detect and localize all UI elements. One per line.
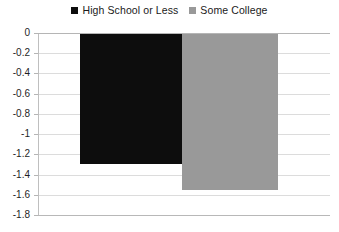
- y-axis-tick-label: -0.8: [13, 109, 30, 119]
- bar-chart: High School or Less Some College 0-0.2-0…: [0, 0, 339, 232]
- bottom-axis-line: [38, 215, 330, 216]
- y-axis-tick-label: -0.6: [13, 89, 30, 99]
- legend-item-high-school: High School or Less: [71, 5, 178, 16]
- legend-label-some-college: Some College: [200, 5, 267, 16]
- y-axis-tick-label: -1.6: [13, 190, 30, 200]
- y-axis-tick-label: 0: [24, 28, 30, 38]
- zero-axis-line: [38, 33, 330, 34]
- bar-some-college: [182, 33, 278, 190]
- gridline: [39, 195, 330, 196]
- y-axis-tick-label: -0.4: [13, 68, 30, 78]
- y-axis-tick-label: -1: [21, 129, 30, 139]
- y-axis-tick-label: -0.2: [13, 48, 30, 58]
- legend-item-some-college: Some College: [189, 5, 267, 16]
- y-axis-tick-label: -1.2: [13, 149, 30, 159]
- y-axis-tick-label: -1.4: [13, 170, 30, 180]
- bar-high-school-or-less: [80, 33, 182, 164]
- plot-area: [38, 33, 330, 215]
- legend-swatch-high-school-icon: [71, 7, 78, 14]
- legend-swatch-some-college-icon: [189, 7, 196, 14]
- y-axis: 0-0.2-0.4-0.6-0.8-1-1.2-1.4-1.6-1.8: [0, 0, 34, 232]
- legend-label-high-school: High School or Less: [82, 5, 178, 16]
- chart-legend: High School or Less Some College: [0, 2, 339, 18]
- y-axis-tick-label: -1.8: [13, 210, 30, 220]
